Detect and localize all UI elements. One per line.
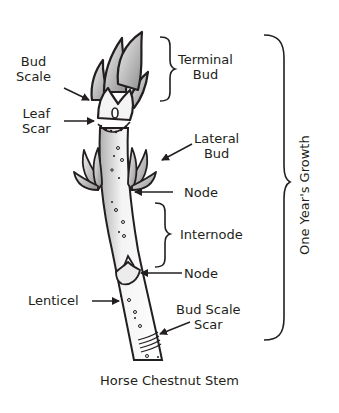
label-lateral-bud-line2: Bud bbox=[194, 146, 239, 161]
label-lateral-bud-line1: Lateral bbox=[194, 131, 239, 146]
terminal-bud bbox=[92, 32, 148, 120]
label-bud-scale-line2: Scale bbox=[16, 69, 51, 84]
label-terminal-bud-line2: Bud bbox=[178, 67, 233, 82]
label-terminal-bud: Terminal Bud bbox=[178, 52, 233, 82]
lateral-bud-left bbox=[74, 148, 102, 190]
label-one-years-growth: One Year's Growth bbox=[297, 135, 312, 255]
label-bud-scale: Bud Scale bbox=[16, 54, 51, 84]
label-bud-scale-line1: Bud bbox=[16, 54, 51, 69]
horse-chestnut-diagram: Bud Scale Leaf Scar Terminal Bud Lateral… bbox=[0, 0, 339, 413]
label-lateral-bud: Lateral Bud bbox=[194, 131, 239, 161]
label-internode: Internode bbox=[180, 227, 243, 242]
lateral-bud-right bbox=[128, 148, 156, 190]
label-bud-scale-scar: Bud Scale Scar bbox=[176, 302, 241, 332]
label-node-upper: Node bbox=[184, 185, 218, 200]
diagram-title: Horse Chestnut Stem bbox=[0, 373, 339, 388]
internode-brace bbox=[155, 203, 170, 267]
label-node-lower: Node bbox=[184, 266, 218, 281]
label-lenticel: Lenticel bbox=[28, 293, 79, 308]
one-years-growth-brace bbox=[264, 35, 290, 340]
label-leaf-scar: Leaf Scar bbox=[22, 106, 51, 136]
label-leaf-scar-line2: Scar bbox=[22, 121, 51, 136]
label-terminal-bud-line1: Terminal bbox=[178, 52, 233, 67]
label-leaf-scar-line1: Leaf bbox=[22, 106, 51, 121]
terminal-bud-brace bbox=[160, 37, 175, 101]
label-bud-scale-scar-line1: Bud Scale bbox=[176, 302, 241, 317]
label-bud-scale-scar-line2: Scar bbox=[176, 317, 241, 332]
